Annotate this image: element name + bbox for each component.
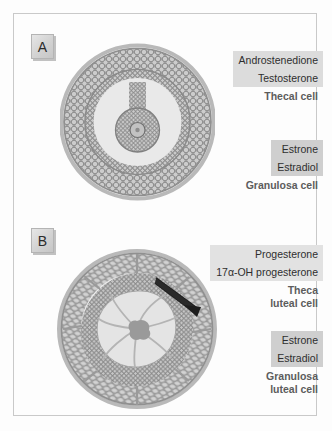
hormone-testosterone: Testosterone [233,69,323,87]
hormone-estradiol-b: Estradiol [271,349,323,367]
label-group-granulosa-cell: Estrone Estradiol Granulosa cell [246,140,323,192]
cell-type-theca-luteal-line1: Theca [210,281,323,297]
hormone-box-granulosa: Estrone Estradiol [271,140,323,176]
cell-type-granulosa-cell: Granulosa cell [246,176,323,192]
hormone-box-thecal: Androstenedione Testosterone [233,51,323,87]
label-group-thecal-cell: Androstenedione Testosterone Thecal cell [233,51,323,103]
panel-label-b: B [31,228,54,253]
hormone-17alpha-oh-progesterone: 17α-OH progesterone [210,263,323,281]
cell-type-theca-luteal-line2: luteal cell [210,297,323,310]
central-clot [129,320,151,340]
panel-label-a: A [31,34,54,59]
hormone-estrone-a: Estrone [271,140,323,158]
graafian-follicle-diagram [60,38,215,203]
figure-canvas: A [0,0,332,431]
hormone-box-granulosa-luteal: Estrone Estradiol [271,331,323,367]
hormone-box-theca-luteal: Progesterone 17α-OH progesterone [210,245,323,281]
cell-type-thecal-cell: Thecal cell [233,87,323,103]
cell-type-granulosa-luteal-line2: luteal cell [266,383,323,396]
hormone-estradiol-a: Estradiol [271,158,323,176]
corpus-luteum-diagram [55,247,220,412]
hormone-estrone-b: Estrone [271,331,323,349]
label-group-theca-luteal-cell: Progesterone 17α-OH progesterone Theca l… [210,245,323,310]
hormone-androstenedione: Androstenedione [233,51,323,69]
label-group-granulosa-luteal-cell: Estrone Estradiol Granulosa luteal cell [266,331,323,396]
cell-type-granulosa-luteal-line1: Granulosa [266,367,323,383]
oocyte-nucleus [135,128,139,132]
hormone-progesterone: Progesterone [210,245,323,263]
